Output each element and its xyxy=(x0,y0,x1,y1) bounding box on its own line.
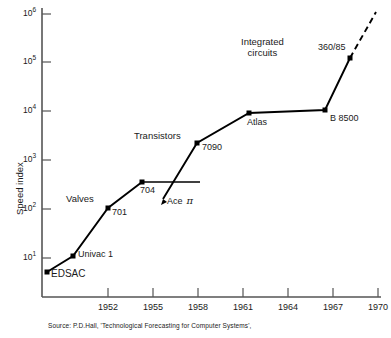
series-projection-dashed-line xyxy=(350,12,376,58)
era-label-integrated-line2: circuits xyxy=(241,48,284,59)
data-point-markers xyxy=(45,56,353,275)
point-label-701: 701 xyxy=(112,207,127,217)
marker-360-85 xyxy=(348,56,353,61)
marker-univac xyxy=(71,254,76,259)
marker-704 xyxy=(140,180,145,185)
x-tick-label-1952: 1952 xyxy=(88,302,128,312)
x-tick-label-1955: 1955 xyxy=(133,302,173,312)
x-axis-ticks xyxy=(108,288,378,297)
series-transistors-ic-line xyxy=(163,58,350,199)
marker-b8500 xyxy=(323,108,328,113)
point-label-360-85: 360/85 xyxy=(318,42,346,52)
marker-edsac xyxy=(45,270,50,275)
point-label-univac: Univac 1 xyxy=(78,249,113,259)
point-label-704: 704 xyxy=(140,185,155,195)
point-label-7090: 7090 xyxy=(202,142,222,152)
x-tick-label-1970: 1970 xyxy=(358,302,391,312)
x-tick-label-1961: 1961 xyxy=(223,302,263,312)
chart-figure: Speed index 106 105 104 103 102 101 1952… xyxy=(0,0,391,338)
point-label-ace: Aceπ xyxy=(167,195,193,206)
era-label-valves: Valves xyxy=(66,194,94,205)
marker-7090 xyxy=(195,141,200,146)
marker-atlas xyxy=(247,111,252,116)
y-axis-ticks xyxy=(42,14,51,258)
y-tick-label-1e2: 102 xyxy=(10,203,36,213)
point-label-b8500: B 8500 xyxy=(330,113,359,123)
y-tick-label-1e3: 103 xyxy=(10,154,36,164)
y-tick-label-1e6: 106 xyxy=(10,8,36,18)
point-label-edsac: EDSAC xyxy=(51,268,85,279)
era-label-integrated-circuits: Integrated circuits xyxy=(241,37,284,59)
marker-701 xyxy=(106,206,111,211)
point-label-ace-text: Ace xyxy=(167,196,183,206)
era-label-transistors: Transistors xyxy=(134,131,181,142)
point-label-atlas: Atlas xyxy=(247,117,267,127)
x-tick-label-1958: 1958 xyxy=(178,302,218,312)
y-tick-label-1e5: 105 xyxy=(10,56,36,66)
pi-symbol: π xyxy=(187,195,194,206)
source-caption: Source: P.D.Hall, 'Technological Forecas… xyxy=(48,322,251,329)
x-tick-label-1967: 1967 xyxy=(313,302,353,312)
y-tick-label-1e1: 101 xyxy=(10,252,36,262)
x-tick-label-1964: 1964 xyxy=(268,302,308,312)
y-tick-label-1e4: 104 xyxy=(10,105,36,115)
